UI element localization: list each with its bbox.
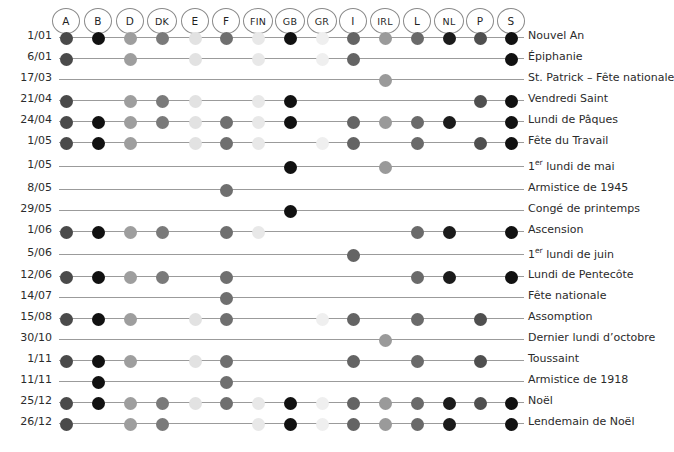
holiday-dot-dk[interactable] — [156, 226, 169, 239]
holiday-dot-gr[interactable] — [316, 397, 329, 410]
holiday-dot-d[interactable] — [124, 53, 137, 66]
holiday-dot-f[interactable] — [220, 313, 233, 326]
holiday-dot-p[interactable] — [474, 397, 487, 410]
holiday-dot-nl[interactable] — [443, 418, 456, 431]
holiday-dot-a[interactable] — [60, 271, 73, 284]
holiday-dot-s[interactable] — [505, 116, 518, 129]
holiday-dot-f[interactable] — [220, 355, 233, 368]
holiday-dot-l[interactable] — [411, 226, 424, 239]
holiday-dot-e[interactable] — [189, 95, 202, 108]
holiday-dot-i[interactable] — [347, 313, 360, 326]
holiday-dot-dk[interactable] — [156, 32, 169, 45]
holiday-dot-a[interactable] — [60, 53, 73, 66]
holiday-dot-s[interactable] — [505, 95, 518, 108]
holiday-dot-fin[interactable] — [252, 397, 265, 410]
holiday-dot-d[interactable] — [124, 95, 137, 108]
holiday-dot-p[interactable] — [474, 313, 487, 326]
holiday-dot-irl[interactable] — [379, 161, 392, 174]
holiday-dot-gr[interactable] — [316, 418, 329, 431]
holiday-dot-irl[interactable] — [379, 418, 392, 431]
holiday-dot-i[interactable] — [347, 32, 360, 45]
holiday-dot-e[interactable] — [189, 355, 202, 368]
holiday-dot-d[interactable] — [124, 397, 137, 410]
holiday-dot-gb[interactable] — [284, 205, 297, 218]
holiday-dot-b[interactable] — [92, 116, 105, 129]
holiday-dot-e[interactable] — [189, 116, 202, 129]
holiday-dot-s[interactable] — [505, 32, 518, 45]
holiday-dot-f[interactable] — [220, 271, 233, 284]
holiday-dot-fin[interactable] — [252, 116, 265, 129]
holiday-dot-f[interactable] — [220, 226, 233, 239]
holiday-dot-dk[interactable] — [156, 95, 169, 108]
holiday-dot-l[interactable] — [411, 313, 424, 326]
holiday-dot-e[interactable] — [189, 313, 202, 326]
holiday-dot-fin[interactable] — [252, 53, 265, 66]
holiday-dot-nl[interactable] — [443, 226, 456, 239]
holiday-dot-l[interactable] — [411, 271, 424, 284]
holiday-dot-a[interactable] — [60, 226, 73, 239]
holiday-dot-a[interactable] — [60, 116, 73, 129]
holiday-dot-d[interactable] — [124, 32, 137, 45]
holiday-dot-p[interactable] — [474, 355, 487, 368]
holiday-dot-d[interactable] — [124, 355, 137, 368]
holiday-dot-l[interactable] — [411, 418, 424, 431]
holiday-dot-s[interactable] — [505, 397, 518, 410]
holiday-dot-d[interactable] — [124, 137, 137, 150]
holiday-dot-b[interactable] — [92, 271, 105, 284]
holiday-dot-l[interactable] — [411, 355, 424, 368]
holiday-dot-s[interactable] — [505, 418, 518, 431]
holiday-dot-fin[interactable] — [252, 418, 265, 431]
holiday-dot-i[interactable] — [347, 397, 360, 410]
holiday-dot-s[interactable] — [505, 226, 518, 239]
holiday-dot-s[interactable] — [505, 53, 518, 66]
holiday-dot-e[interactable] — [189, 32, 202, 45]
holiday-dot-b[interactable] — [92, 137, 105, 150]
holiday-dot-l[interactable] — [411, 32, 424, 45]
holiday-dot-irl[interactable] — [379, 116, 392, 129]
holiday-dot-l[interactable] — [411, 397, 424, 410]
holiday-dot-gr[interactable] — [316, 32, 329, 45]
holiday-dot-p[interactable] — [474, 95, 487, 108]
holiday-dot-i[interactable] — [347, 137, 360, 150]
holiday-dot-p[interactable] — [474, 137, 487, 150]
holiday-dot-d[interactable] — [124, 271, 137, 284]
holiday-dot-nl[interactable] — [443, 116, 456, 129]
holiday-dot-irl[interactable] — [379, 32, 392, 45]
holiday-dot-f[interactable] — [220, 32, 233, 45]
holiday-dot-f[interactable] — [220, 397, 233, 410]
holiday-dot-gb[interactable] — [284, 397, 297, 410]
holiday-dot-fin[interactable] — [252, 95, 265, 108]
holiday-dot-nl[interactable] — [443, 271, 456, 284]
holiday-dot-irl[interactable] — [379, 397, 392, 410]
holiday-dot-i[interactable] — [347, 355, 360, 368]
holiday-dot-e[interactable] — [189, 397, 202, 410]
holiday-dot-f[interactable] — [220, 292, 233, 305]
holiday-dot-b[interactable] — [92, 355, 105, 368]
holiday-dot-a[interactable] — [60, 355, 73, 368]
holiday-dot-i[interactable] — [347, 53, 360, 66]
holiday-dot-a[interactable] — [60, 32, 73, 45]
holiday-dot-dk[interactable] — [156, 271, 169, 284]
holiday-dot-i[interactable] — [347, 249, 360, 262]
holiday-dot-nl[interactable] — [443, 32, 456, 45]
holiday-dot-fin[interactable] — [252, 137, 265, 150]
holiday-dot-a[interactable] — [60, 137, 73, 150]
holiday-dot-f[interactable] — [220, 184, 233, 197]
holiday-dot-e[interactable] — [189, 53, 202, 66]
holiday-dot-a[interactable] — [60, 313, 73, 326]
holiday-dot-dk[interactable] — [156, 418, 169, 431]
holiday-dot-fin[interactable] — [252, 226, 265, 239]
holiday-dot-dk[interactable] — [156, 116, 169, 129]
holiday-dot-a[interactable] — [60, 397, 73, 410]
holiday-dot-fin[interactable] — [252, 32, 265, 45]
holiday-dot-a[interactable] — [60, 95, 73, 108]
holiday-dot-i[interactable] — [347, 418, 360, 431]
holiday-dot-l[interactable] — [411, 116, 424, 129]
holiday-dot-b[interactable] — [92, 226, 105, 239]
holiday-dot-gb[interactable] — [284, 95, 297, 108]
holiday-dot-f[interactable] — [220, 376, 233, 389]
holiday-dot-gr[interactable] — [316, 137, 329, 150]
holiday-dot-gb[interactable] — [284, 161, 297, 174]
holiday-dot-e[interactable] — [189, 137, 202, 150]
holiday-dot-l[interactable] — [411, 137, 424, 150]
